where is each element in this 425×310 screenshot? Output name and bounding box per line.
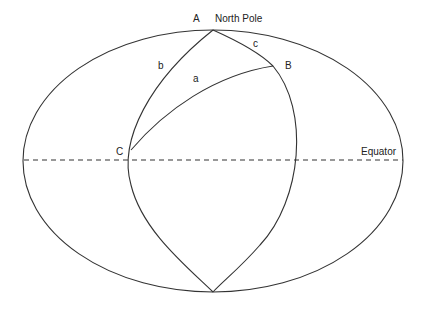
- side-a-label: a: [193, 73, 199, 84]
- meridian-left: [128, 30, 213, 292]
- vertex-a-label: A: [193, 13, 200, 24]
- vertex-c-label: C: [116, 146, 123, 157]
- side-a-arc: [131, 66, 273, 150]
- equator-label: Equator: [361, 146, 397, 157]
- sphere-outline: [23, 30, 403, 292]
- spherical-triangle-diagram: A North Pole c B b a C Equator: [0, 0, 425, 310]
- side-c-label: c: [253, 38, 258, 49]
- vertex-b-label: B: [285, 60, 292, 71]
- side-b-label: b: [158, 60, 164, 71]
- north-pole-label: North Pole: [215, 13, 263, 24]
